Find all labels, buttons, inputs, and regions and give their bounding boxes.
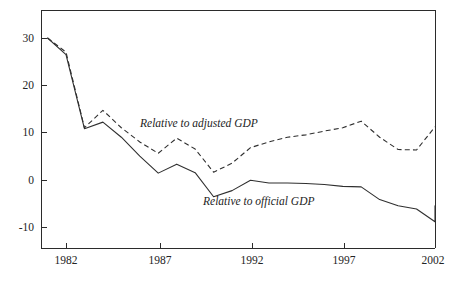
x-tick-label-1992: 1992 (241, 254, 264, 266)
x-tick-label-2002: 2002 (422, 254, 445, 266)
series-line-adjusted-gdp (48, 38, 435, 172)
y-axis-labels: 30 20 10 0 -10 (19, 32, 35, 233)
plot-frame (41, 10, 435, 248)
x-axis-labels: 1982 1987 1992 1997 2002 (55, 254, 445, 266)
y-tick-label-10: 10 (23, 126, 35, 138)
x-tick-label-1987: 1987 (149, 254, 172, 266)
chart-figure: 30 20 10 0 -10 1982 1987 1992 1997 2002 … (0, 0, 454, 281)
y-tick-label-20: 20 (23, 79, 35, 91)
y-tick-label-0: 0 (28, 174, 34, 186)
y-tick-label-minus10: -10 (19, 221, 35, 233)
x-axis-ticks (66, 243, 435, 248)
x-tick-label-1982: 1982 (55, 254, 78, 266)
y-axis-ticks (41, 38, 47, 227)
series-annotation-adjusted-gdp: Relative to adjusted GDP (139, 117, 258, 130)
x-tick-label-1997: 1997 (333, 254, 356, 266)
line-chart: 30 20 10 0 -10 1982 1987 1992 1997 2002 … (0, 0, 454, 281)
series-annotation-official-gdp: Relative to official GDP (202, 195, 314, 208)
y-tick-label-30: 30 (23, 32, 35, 44)
